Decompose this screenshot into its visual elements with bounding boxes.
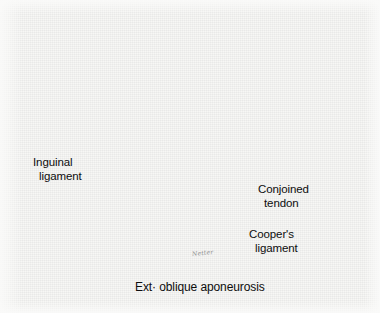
inguinal-ligament-label: Inguinal ligament [33, 156, 82, 183]
inguinal-ligament-label-line2: ligament [33, 170, 82, 184]
ext-oblique-aponeurosis-label: Ext· oblique aponeurosis [135, 281, 265, 295]
conjoined-tendon-label-line2: tendon [258, 197, 309, 211]
needle-holder-instrument [30, 214, 143, 306]
inguinal-ligament-label-line1: Inguinal [33, 156, 82, 170]
ext-oblique-aponeurosis-label-line1: Ext· oblique aponeurosis [135, 281, 265, 295]
coopers-ligament-label-line1: Cooper's [249, 228, 298, 242]
external-oblique-aponeurosis [88, 218, 243, 270]
surgical-illustration-figure: Inguinal ligament Conjoined tendon Coope… [0, 0, 380, 313]
coopers-ligament-label-line2: ligament [249, 242, 298, 256]
coopers-ligament-label: Cooper's ligament [249, 228, 298, 255]
conjoined-tendon-label: Conjoined tendon [258, 183, 309, 210]
conjoined-tendon-label-line1: Conjoined [258, 183, 309, 197]
